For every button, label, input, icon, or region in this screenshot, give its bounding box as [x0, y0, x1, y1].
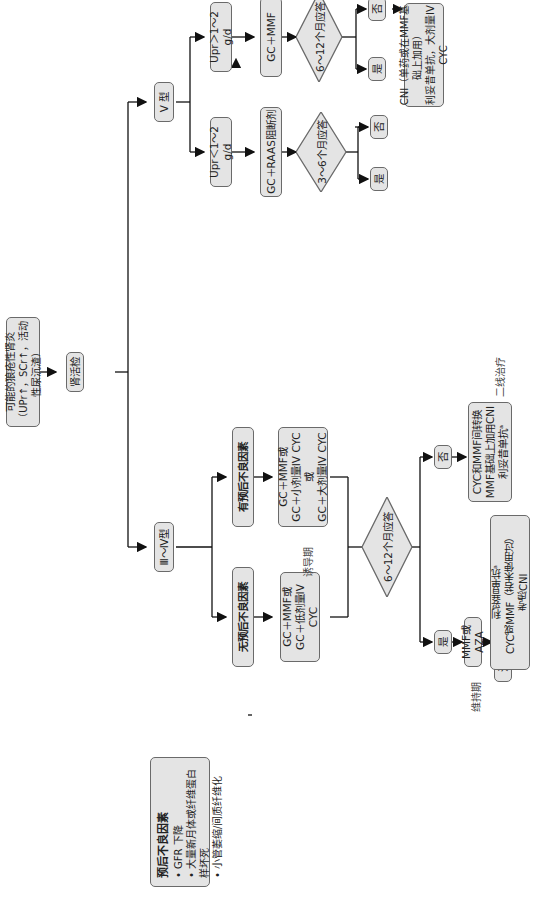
node-text: 肾活检 — [69, 357, 82, 387]
factor-item: 小管萎缩/间质纤维化 — [211, 776, 224, 878]
v-low-response-text: 3～6个月应答 — [314, 112, 329, 192]
v-low-yes-node: 是 — [370, 167, 388, 191]
node-text: 是 — [373, 174, 386, 184]
v-high-no-node: 否 — [368, 0, 386, 21]
node-text: 有预后不良因素 — [237, 442, 250, 512]
second-line-label: 二线治疗 — [492, 357, 507, 397]
node-text: Ⅲ～Ⅳ型 — [158, 529, 171, 566]
poor-prognosis-node: 有预后不良因素 — [232, 427, 254, 527]
node-text: CYC和MMF间转换 — [471, 410, 484, 494]
node-text: 否 — [373, 122, 386, 132]
gc-raas-node: GC＋RAAS阻断剂 — [260, 107, 282, 197]
node-text: 否 — [371, 4, 384, 14]
node-text: 利妥昔单抗ᵃ — [491, 566, 504, 620]
node-text: 利妥昔单抗ᵃ — [497, 425, 510, 479]
v-high-no-treatment-node: CNI（单药或在MMF基础上加用） 利妥昔单抗，大剂量IV CYC — [404, 3, 444, 107]
node-text: GC＋MMF或 — [277, 447, 290, 507]
renal-biopsy-node: 肾活检 — [66, 352, 84, 392]
node-text: GC＋小剂量IV CYC或 — [290, 428, 316, 526]
node-text: GC＋MMF — [265, 12, 278, 62]
possible-lupus-nephritis-node: 可能的狼疮性肾炎 （UPr↑，SCr↑，活动性尿沉渣） — [6, 317, 40, 427]
node-text: MMF基础上加用CNI — [484, 406, 497, 498]
v-high-response-text: 6～12个月应答 — [312, 0, 327, 82]
node-text: （UPr↑，SCr↑，活动性尿沉渣） — [17, 318, 43, 426]
iv-no-node: 否 — [434, 445, 452, 469]
node-text: CYC或MMF（若未使用过） — [504, 531, 517, 653]
factor-item: GFR 下降 — [172, 825, 185, 878]
poor-prognosis-factors-box: 预后不良因素 GFR 下降 大量新月体或纤维蛋白样坏死 小管萎缩/间质纤维化 — [150, 757, 210, 887]
node-text: GC＋低剂量IV CYC — [294, 573, 320, 661]
iv-response-text: 6～12个月应答 — [380, 507, 395, 587]
second-line-treatment-node: CYC和MMF间转换 MMF基础上加用CNI 利妥昔单抗ᵃ — [468, 402, 512, 502]
no-poor-prognosis-treatment-node: GC＋MMF或 GC＋低剂量IV CYC — [280, 572, 320, 662]
gc-mmf-v-node: GC＋MMF — [260, 0, 282, 77]
poor-prognosis-treatment-node: GC＋MMF或 GC＋小剂量IV CYC或 GC＋大剂量IV CYC — [278, 427, 328, 527]
node-text: GC＋RAAS阻断剂 — [265, 110, 278, 194]
maintenance-treatment-node: MMF或AZA — [464, 617, 482, 667]
node-text: 可能的狼疮性肾炎 — [4, 332, 17, 412]
node-text: 无预后不良因素 — [237, 582, 250, 652]
no-poor-prognosis-node: 无预后不良因素 — [232, 567, 254, 667]
node-text: 是 — [371, 64, 384, 74]
node-text: 否 — [437, 452, 450, 462]
upr-high-node: Upr＞1～2 g/d — [210, 2, 232, 72]
lupus-nephritis-flowchart: 可能的狼疮性肾炎 （UPr↑，SCr↑，活动性尿沉渣） 肾活检 V 型 Upr＜… — [0, 0, 539, 897]
node-text: GC＋MMF或 — [281, 587, 294, 647]
node-text: Upr＞1～2 g/d — [208, 3, 234, 71]
class-v-node: V 型 — [154, 82, 174, 122]
node-text: 考虑CNI — [517, 574, 530, 611]
v-high-yes-node: 是 — [368, 57, 386, 81]
node-text: V 型 — [158, 92, 171, 113]
factors-title: 预后不良因素 — [157, 812, 170, 878]
induction-phase-label: 诱导期 — [300, 547, 315, 577]
node-text: 利妥昔单抗，大剂量IV CYC — [424, 4, 450, 106]
iv-yes-node: 是 — [434, 630, 452, 654]
maintenance-phase-label: 维持期 — [468, 682, 483, 712]
upr-low-node: Upr＜1～2 g/d — [210, 117, 232, 187]
class-3-4-node: Ⅲ～Ⅳ型 — [154, 522, 174, 572]
factor-item: 大量新月体或纤维蛋白样坏死 — [185, 766, 211, 878]
node-text: CNI（单药或在MMF基础上加用） — [398, 4, 424, 106]
node-text: MMF或AZA — [460, 618, 486, 666]
relapse-treatment-box: 利妥昔单抗ᵃ CYC或MMF（若未使用过） 考虑CNI — [490, 515, 530, 670]
node-text: GC＋大剂量IV CYC — [316, 432, 329, 521]
node-text: Upr＜1～2 g/d — [208, 118, 234, 186]
node-text: 是 — [437, 637, 450, 647]
v-low-no-node: 否 — [370, 115, 388, 139]
